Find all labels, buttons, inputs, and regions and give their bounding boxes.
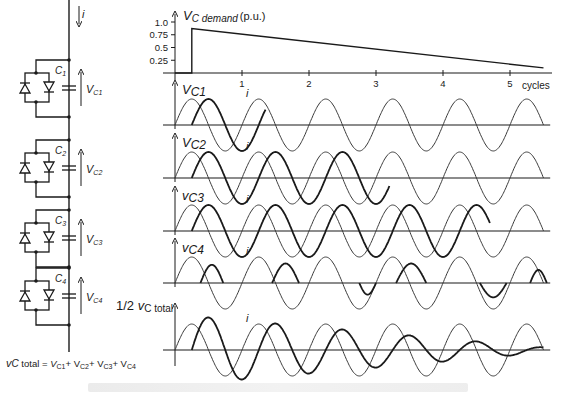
panel-label: VC2 [182, 135, 206, 152]
module-2 [20, 138, 81, 199]
voltage-pulse [359, 283, 376, 295]
x-tick-label: 3 [373, 78, 378, 89]
voltage-pulse [201, 265, 224, 283]
panel-3: vC3i [163, 188, 550, 257]
x-unit-label: cycles [522, 80, 550, 91]
panel-1: VC1i [163, 82, 550, 151]
module-1 [20, 58, 81, 119]
demand-chart: 1.00.750.50.25 12345 VC demand(p.u.) cyc… [150, 8, 553, 91]
module-voltage-label: VC3 [86, 233, 102, 246]
total-voltage-equation: vC total = VC1+ VC2+ VC3+ VC4 [6, 357, 136, 370]
demand-title: VC demand(p.u.) [183, 8, 266, 24]
voltage-pulse [396, 264, 426, 284]
module-voltage-label: VC4 [86, 291, 102, 304]
x-tick-label: 1 [239, 78, 244, 89]
panel-label: 1/2 vC total [116, 298, 173, 314]
y-tick-label: 1.0 [155, 17, 168, 28]
demand-curve [175, 29, 544, 73]
current-curve-label: i [246, 87, 249, 99]
module-3 [20, 208, 81, 269]
cap-label: C3 [55, 215, 66, 227]
module-stack: C1VC1C2VC2C3VC3C4VC4 [20, 58, 102, 327]
cap-label: C2 [55, 145, 66, 157]
panel-2: VC2i [163, 135, 550, 204]
waveform-panels: VC1iVC2ivC3ivC4i1/2 vC totali [116, 82, 550, 380]
x-tick-label: 5 [507, 78, 512, 89]
module-voltage-label: VC1 [86, 83, 102, 96]
cap-label: C1 [55, 65, 66, 77]
chain-link-circuit [69, 0, 79, 352]
y-tick-label: 0.75 [150, 29, 169, 40]
panel-label: vC4 [182, 240, 204, 257]
panel-4: vC4i [163, 240, 550, 309]
figure-caption-illegible [88, 383, 468, 392]
voltage-waveform [192, 318, 544, 380]
y-tick-label: 0.25 [150, 55, 169, 66]
demand-y-ticks: 1.00.750.50.25 [150, 17, 176, 66]
module-voltage-label: VC2 [86, 163, 102, 176]
panel-5: 1/2 vC totali [116, 298, 550, 380]
voltage-pulse [480, 283, 507, 297]
waveform-figure: i C1VC1C2VC2C3VC3C4VC4 vC total = VC1+ V… [0, 0, 564, 397]
module-4 [20, 266, 81, 327]
cap-label: C4 [55, 273, 66, 285]
panel-label: VC1 [182, 82, 206, 99]
y-tick-label: 0.5 [155, 42, 168, 53]
current-curve-label: i [246, 312, 249, 324]
x-tick-label: 4 [440, 78, 445, 89]
current-label: i [82, 8, 85, 20]
panel-label: vC3 [182, 188, 204, 205]
x-tick-label: 2 [306, 78, 311, 89]
voltage-pulse [272, 264, 299, 284]
